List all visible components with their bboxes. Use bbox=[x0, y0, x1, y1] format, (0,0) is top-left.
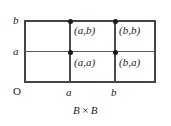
x-axis-tick-label-b: b bbox=[111, 87, 117, 98]
grid-line-horizontal-a bbox=[24, 51, 155, 52]
point-marker-b-a bbox=[113, 50, 118, 55]
point-label-b-a: (b,a) bbox=[119, 57, 140, 68]
axis-x-line bbox=[24, 81, 156, 83]
y-axis-tick-label-b: b bbox=[13, 15, 19, 26]
y-axis-tick-label-a: a bbox=[13, 46, 19, 57]
point-marker-b-b bbox=[113, 19, 118, 24]
cartesian-product-figure: (a,b) (b,b) (a,a) (b,a) b a O a b B×B bbox=[0, 0, 171, 126]
point-marker-a-b bbox=[68, 19, 73, 24]
caption-set-right: B bbox=[91, 104, 98, 116]
x-axis-tick-label-a: a bbox=[66, 87, 72, 98]
grid-line-top-b bbox=[24, 20, 156, 22]
point-label-a-b: (a,b) bbox=[74, 25, 95, 36]
origin-label: O bbox=[13, 86, 21, 97]
point-label-a-a: (a,a) bbox=[74, 57, 95, 68]
figure-caption: B×B bbox=[0, 104, 171, 116]
point-label-b-b: (b,b) bbox=[119, 25, 140, 36]
caption-times-symbol: × bbox=[80, 104, 91, 116]
point-marker-a-a bbox=[68, 50, 73, 55]
